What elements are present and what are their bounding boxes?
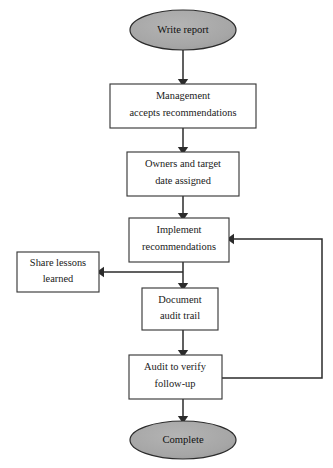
node-implement[interactable]: Implement recommendations	[129, 218, 229, 262]
owners-label-line1: Owners and target	[145, 158, 221, 169]
node-document-audit[interactable]: Document audit trail	[142, 288, 218, 330]
share-lessons-label-line2: learned	[43, 273, 74, 284]
management-label-line2: accepts recommendations	[129, 107, 236, 118]
document-audit-label-line2: audit trail	[160, 310, 200, 321]
complete-terminator-label: Complete	[162, 434, 203, 445]
audit-verify-label-line1: Audit to verify	[144, 361, 207, 372]
node-complete[interactable]: Complete	[130, 421, 236, 459]
node-audit-verify[interactable]: Audit to verify follow-up	[129, 355, 222, 399]
implement-label-line2: recommendations	[142, 241, 216, 252]
edge-audit-verify-feedback-to-implement	[222, 239, 322, 378]
document-audit-label-line1: Document	[158, 294, 201, 305]
node-share-lessons[interactable]: Share lessons learned	[17, 252, 99, 292]
audit-verify-label-line2: follow-up	[155, 378, 196, 389]
node-owners[interactable]: Owners and target date assigned	[127, 152, 239, 196]
implement-label-line1: Implement	[156, 224, 201, 235]
management-label-line1: Management	[156, 90, 210, 101]
node-management[interactable]: Management accepts recommendations	[110, 84, 256, 128]
node-start[interactable]: Write report	[130, 10, 236, 50]
flowchart-diagram: Write report Management accepts recommen…	[0, 0, 333, 468]
start-terminator-label: Write report	[157, 24, 209, 35]
flowchart-canvas: Write report Management accepts recommen…	[0, 0, 333, 468]
share-lessons-label-line1: Share lessons	[30, 257, 86, 268]
owners-label-line2: date assigned	[155, 175, 211, 186]
